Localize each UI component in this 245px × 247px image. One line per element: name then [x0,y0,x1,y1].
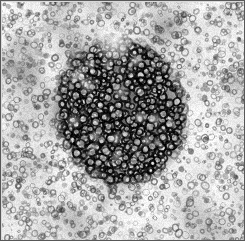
micrograph-figure [0,0,245,247]
electron-micrograph-image [2,2,245,241]
bottom-white-strip [0,241,245,247]
micrograph-frame [0,0,245,241]
